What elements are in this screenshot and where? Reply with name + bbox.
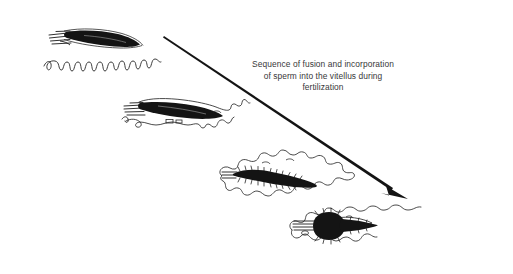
fertilization-sequence-illustration <box>0 0 513 274</box>
arrow-head <box>381 186 408 199</box>
sperm-tail-mass <box>340 219 378 232</box>
sperm-flagellum <box>44 59 161 71</box>
sperm-head <box>64 30 140 47</box>
stage-4-sperm-incorporation <box>290 205 421 244</box>
caption-line-3: fertilization <box>232 82 414 94</box>
acrosome-striations-icon <box>293 221 315 230</box>
vitellus-membrane-lower <box>126 117 234 128</box>
caption-line-2: of sperm into the vitellus during <box>232 71 414 83</box>
caption-line-1: Sequence of fusion and incorporation <box>232 59 414 71</box>
stage-2-sperm-fusion <box>122 99 250 128</box>
sperm-flagellum <box>122 117 128 123</box>
stage-3-sperm-engulfment <box>220 150 355 196</box>
figure-caption: Sequence of fusion and incorporation of … <box>232 59 414 94</box>
sperm-head <box>138 102 223 119</box>
stage-1-sperm-contact <box>44 29 161 71</box>
figure-canvas: Sequence of fusion and incorporation of … <box>0 0 513 274</box>
